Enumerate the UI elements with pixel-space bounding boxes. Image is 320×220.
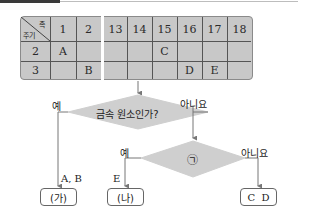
decision2-label: ㉠: [187, 151, 198, 167]
branch-label-e: E: [113, 173, 120, 184]
decision2-no-label: 아니요: [241, 145, 268, 160]
output-box-cd: C D: [240, 188, 277, 206]
decision2-yes-label: 예: [120, 145, 129, 160]
output-box-na: (나): [107, 188, 144, 206]
branch-label-ab: A, B: [61, 173, 82, 184]
decision1-label: 금속 원소인가?: [96, 106, 159, 121]
output-box-ga: (가): [40, 188, 77, 206]
decision1-no-label: 아니요: [180, 96, 207, 111]
decision1-yes-label: 예: [52, 98, 61, 113]
